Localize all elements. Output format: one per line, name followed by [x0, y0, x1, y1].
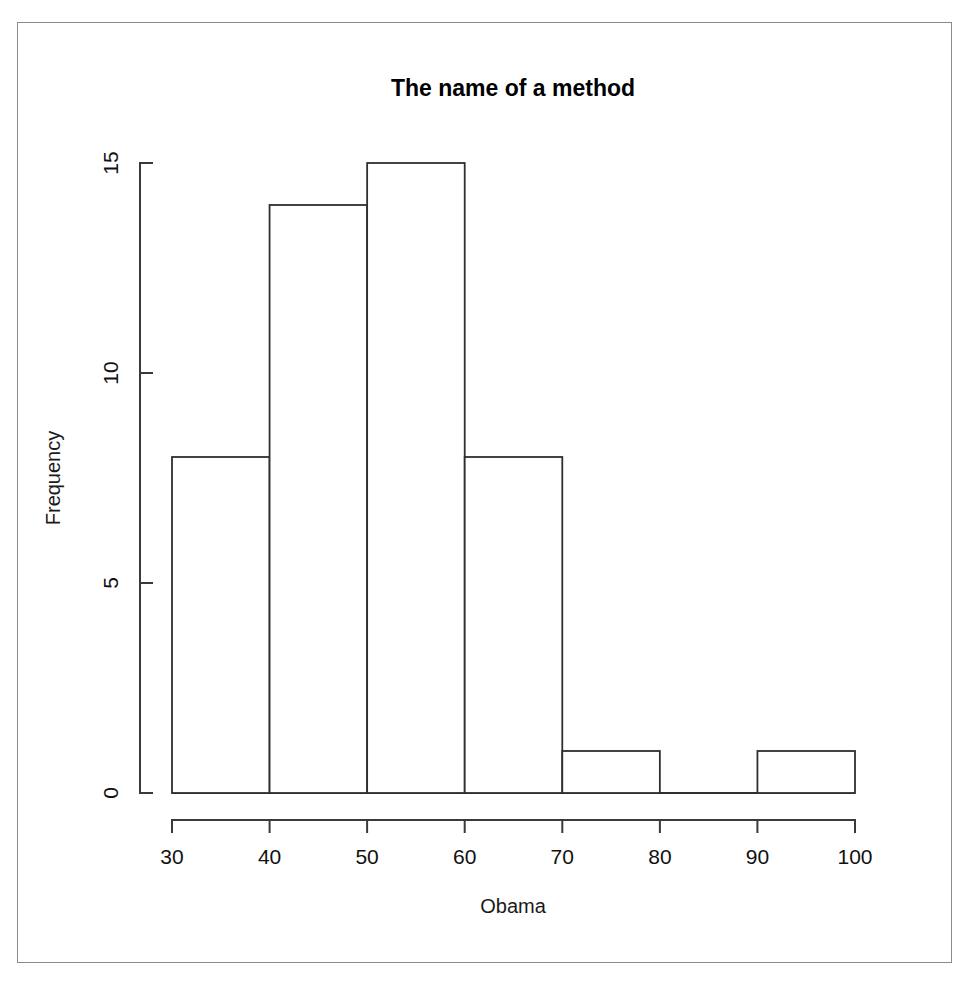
x-tick-label-90: 90 — [746, 845, 769, 868]
x-tick-label-40: 40 — [258, 845, 281, 868]
y-axis-title: Frequency — [42, 431, 64, 526]
bar-40-50 — [270, 205, 368, 793]
bar-30-40 — [172, 457, 270, 793]
bar-70-80 — [562, 751, 660, 793]
x-tick-label-80: 80 — [648, 845, 671, 868]
bar-50-60 — [367, 163, 465, 793]
y-tick-label-0: 0 — [99, 787, 122, 799]
y-axis-line — [140, 163, 152, 793]
x-tick-label-30: 30 — [160, 845, 183, 868]
y-tick-label-10: 10 — [99, 361, 122, 384]
histogram-bars — [172, 163, 855, 793]
x-tick-label-50: 50 — [355, 845, 378, 868]
plot-title: The name of a method — [391, 75, 635, 101]
bar-60-70 — [465, 457, 563, 793]
bar-90-100 — [757, 751, 855, 793]
x-axis-title: Obama — [480, 895, 546, 917]
x-axis-line — [172, 820, 855, 832]
figure-root: The name of a method 0 5 10 15 Frequency… — [0, 0, 967, 989]
x-tick-label-70: 70 — [551, 845, 574, 868]
y-tick-label-5: 5 — [99, 577, 122, 589]
y-tick-label-15: 15 — [99, 151, 122, 174]
x-tick-label-100: 100 — [837, 845, 872, 868]
x-tick-label-60: 60 — [453, 845, 476, 868]
histogram-plot: The name of a method 0 5 10 15 Frequency… — [0, 0, 967, 989]
